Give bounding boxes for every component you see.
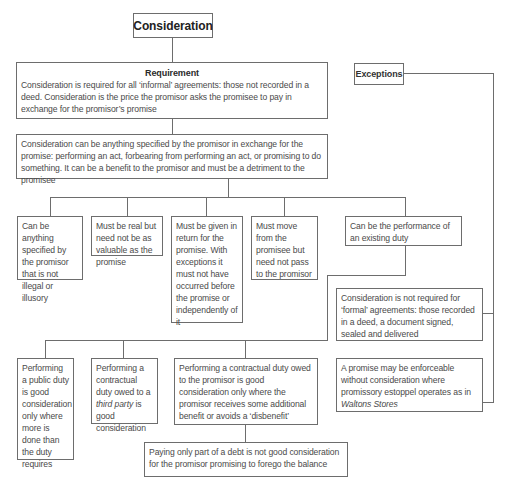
root-node: Consideration [133,13,213,38]
formal-agreement-text: Consideration is not required for ‘forma… [341,293,475,339]
connector [284,197,285,216]
requirement-node: Requirement Consideration is required fo… [16,62,328,119]
connector [206,197,207,216]
third-party-italic: third party [96,399,133,409]
case-name: Waltons Stores [341,399,398,409]
rule-node-adequacy: Must be real but need not be as valuable… [91,216,163,256]
rule-text: Can be the performance of an existing du… [350,221,450,243]
connector [172,118,173,134]
connector [45,340,328,341]
rule-text: Can be anything specified by the promiso… [22,221,69,303]
connector [327,275,328,341]
connector [172,37,173,62]
requirement-text: Consideration is required for all ‘infor… [21,79,323,115]
definition-node: Consideration can be anything specified … [16,134,328,179]
connector [123,340,124,358]
requirement-heading: Requirement [21,67,323,79]
part-payment-node: Paying only part of a debt is not good c… [144,442,348,477]
rule-text: Must be given in return for the promise.… [176,221,237,327]
rule-node-privity: Must move from the promisee but need not… [251,216,318,280]
promisor-duty-text: Performing a contractual duty owed to th… [179,363,311,421]
connector [245,424,246,442]
exceptions-node: Exceptions [354,63,404,85]
rule-node-existing-duty: Can be the performance of an existing du… [345,216,462,246]
estoppel-node: A promise may be enforceable without con… [336,358,483,412]
promisor-duty-node: Performing a contractual duty owed to th… [174,358,318,425]
rule-node-legality: Can be anything specified by the promiso… [17,216,83,280]
part-payment-text: Paying only part of a debt is not good c… [149,447,339,469]
connector [45,340,46,358]
rule-text: Must move from the promisee but need not… [256,221,312,279]
root-title: Consideration [133,20,212,32]
connector [482,402,494,403]
estoppel-text: A promise may be enforceable without con… [341,363,471,397]
third-party-duty-node: Performing a contractual duty owed to a … [91,358,158,424]
connector [405,245,406,275]
third-party-text: Performing a contractual duty owed to a [96,363,151,397]
connector [482,313,494,314]
rule-text: Must be real but need not be as valuable… [96,221,156,267]
connector [50,197,51,216]
public-duty-text: Performing a public duty is good conside… [22,363,72,469]
formal-agreement-node: Consideration is not required for ‘forma… [336,288,483,341]
definition-text: Consideration can be anything specified … [21,138,323,186]
connector [327,275,406,276]
public-duty-node: Performing a public duty is good conside… [17,358,74,460]
rule-node-past-consideration: Must be given in return for the promise.… [171,216,243,323]
connector [403,73,494,74]
connector [127,197,128,216]
connector [405,197,406,216]
connector [245,340,246,358]
exceptions-title: Exceptions [355,68,402,80]
connector [493,73,494,402]
connector [50,197,406,198]
